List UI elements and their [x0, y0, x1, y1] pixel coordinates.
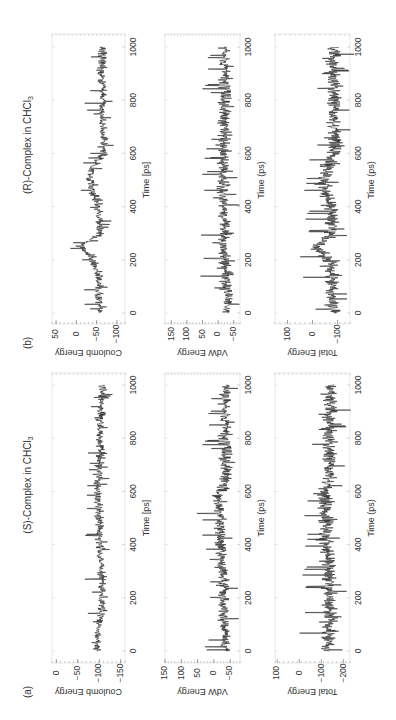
- x-tick-label: 800: [243, 93, 253, 107]
- y-tick-label: 100: [271, 666, 281, 680]
- y-axis-label: VdW Energy: [177, 687, 228, 697]
- y-tick-label: 0: [208, 670, 218, 675]
- y-axis-label: Coulomb Energy: [54, 348, 122, 358]
- plot-frame: [165, 373, 240, 663]
- x-tick-label: 600: [353, 484, 363, 498]
- x-axis-label: Time (ps): [256, 161, 266, 199]
- x-axis-label: Time (ps): [366, 499, 376, 537]
- panel-label: (a): [22, 686, 33, 698]
- x-tick-label: 0: [243, 310, 253, 315]
- x-tick-label: 400: [128, 537, 138, 551]
- y-tick-label: −50: [91, 327, 101, 342]
- panel-title: (R)-Complex in CHCl3: [22, 96, 34, 194]
- x-axis-label: Time [ps]: [141, 162, 151, 199]
- x-tick-label: 200: [353, 252, 363, 266]
- x-axis-label: Time (ps): [366, 161, 376, 199]
- y-tick-label: 150: [159, 666, 169, 680]
- x-tick-label: 400: [243, 199, 253, 213]
- subplot-coulomb-energy: 02004006008001000500−50−100Coulomb Energ…: [50, 34, 151, 358]
- x-tick-label: 0: [128, 648, 138, 653]
- x-tick-label: 400: [128, 199, 138, 213]
- y-tick-label: 150: [166, 327, 176, 341]
- panel-label: (b): [22, 337, 33, 349]
- y-tick-label: 0: [71, 331, 81, 336]
- energy-trace: [197, 385, 239, 651]
- y-tick-label: 50: [197, 329, 207, 339]
- x-tick-label: 800: [353, 93, 363, 107]
- x-tick-label: 1000: [243, 37, 253, 56]
- y-tick-label: 100: [181, 327, 191, 341]
- y-axis-label: Coulomb Energy: [54, 687, 122, 697]
- x-tick-label: 800: [128, 431, 138, 445]
- subplot-total-energy: 020040060080010001000−100−200Total Energ…: [271, 373, 376, 697]
- x-tick-label: 200: [243, 590, 253, 604]
- y-axis-label: VdW Energy: [177, 348, 228, 358]
- y-tick-label: −150: [115, 663, 125, 682]
- y-tick-label: −50: [228, 327, 238, 342]
- x-tick-label: 0: [353, 310, 363, 315]
- x-tick-label: 600: [243, 146, 253, 160]
- x-tick-label: 200: [128, 252, 138, 266]
- x-tick-label: 600: [243, 484, 253, 498]
- x-tick-label: 200: [243, 252, 253, 266]
- y-tick-label: 100: [282, 327, 292, 341]
- y-tick-label: 0: [212, 331, 222, 336]
- x-tick-label: 400: [353, 537, 363, 551]
- x-axis-label: Time (ps): [256, 499, 266, 537]
- x-tick-label: 800: [128, 93, 138, 107]
- x-tick-label: 400: [243, 537, 253, 551]
- y-tick-label: −50: [72, 666, 82, 681]
- y-tick-label: 0: [294, 670, 304, 675]
- energy-trace: [85, 385, 113, 651]
- y-tick-label: 100: [176, 666, 186, 680]
- x-tick-label: 1000: [353, 37, 363, 56]
- x-tick-label: 1000: [128, 37, 138, 56]
- y-tick-label: −100: [332, 324, 342, 343]
- plot-frame: [52, 373, 125, 663]
- x-tick-label: 200: [353, 590, 363, 604]
- y-tick-label: 50: [50, 329, 60, 339]
- x-axis-label: Time [ps]: [141, 500, 151, 537]
- energy-trace: [71, 47, 114, 313]
- x-tick-label: 1000: [128, 375, 138, 394]
- x-tick-label: 0: [128, 310, 138, 315]
- x-tick-label: 200: [128, 590, 138, 604]
- plot-frame: [275, 373, 350, 663]
- y-tick-label: 0: [51, 670, 61, 675]
- y-tick-label: 0: [307, 331, 317, 336]
- x-tick-label: 0: [243, 648, 253, 653]
- x-tick-label: 1000: [353, 375, 363, 394]
- energy-trace: [300, 47, 354, 313]
- panel-b: (b)(R)-Complex in CHCl302004006008001000…: [22, 34, 377, 358]
- y-tick-label: 50: [192, 668, 202, 678]
- plot-frame: [275, 34, 350, 324]
- energy-trace: [300, 385, 351, 651]
- x-tick-label: 600: [128, 484, 138, 498]
- x-tick-label: 400: [353, 199, 363, 213]
- x-tick-label: 1000: [243, 375, 253, 394]
- panel-title: (S)-Complex in CHCl3: [22, 436, 34, 533]
- y-axis-label: Total Energy: [287, 348, 338, 358]
- x-tick-label: 0: [353, 648, 363, 653]
- energy-time-series-figure: (b)(R)-Complex in CHCl302004006008001000…: [0, 0, 396, 720]
- y-tick-label: −100: [316, 663, 326, 682]
- subplot-coulomb-energy: 020040060080010000−50−100−150Coulomb Ene…: [51, 373, 152, 697]
- x-tick-label: 600: [128, 146, 138, 160]
- x-tick-label: 800: [243, 431, 253, 445]
- x-tick-label: 800: [353, 431, 363, 445]
- subplot-total-energy: 020040060080010001000−100Total EnergyTim…: [275, 34, 376, 358]
- y-tick-label: −100: [111, 324, 121, 343]
- panel-a: (a)(S)-Complex in CHCl302004006008001000…: [22, 373, 377, 698]
- y-tick-label: −100: [93, 663, 103, 682]
- y-axis-label: Total Energy: [287, 687, 338, 697]
- x-tick-label: 600: [353, 146, 363, 160]
- subplot-vdw-energy: 02004006008001000150100500−50VdW EnergyT…: [165, 34, 266, 358]
- y-tick-label: −50: [224, 666, 234, 681]
- subplot-vdw-energy: 02004006008001000150100500−50VdW EnergyT…: [159, 373, 266, 697]
- energy-trace: [201, 47, 240, 313]
- y-tick-label: −200: [338, 663, 348, 682]
